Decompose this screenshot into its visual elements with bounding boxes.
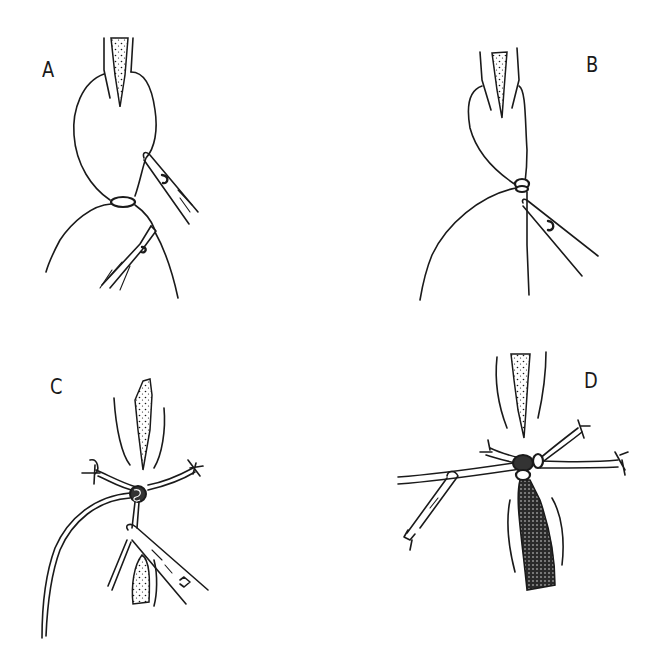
suture-tail-b (420, 188, 516, 300)
panel-a (46, 38, 198, 298)
suture-loop-b (469, 86, 517, 185)
knot-tying-figure: A B C D (0, 0, 663, 655)
panel-c (42, 379, 208, 638)
tissue-lower-c (132, 555, 149, 604)
knot-d (513, 455, 533, 471)
forceps-a (110, 226, 156, 288)
vessel-stump-b (492, 52, 507, 118)
illustration-canvas (0, 0, 663, 655)
tissue-upper-d (511, 354, 530, 438)
panel-d (398, 352, 628, 590)
knot-a (111, 197, 135, 207)
panel-b (420, 48, 598, 300)
knot-c (130, 486, 146, 502)
needle-holder-b (522, 199, 598, 256)
tissue-upper-c (135, 379, 152, 470)
tissue-lower-dark-d (518, 480, 555, 590)
suture-loop-a (74, 72, 156, 200)
suture-horizontal-d (398, 462, 520, 477)
vessel-stump-a (111, 38, 128, 107)
suture-end-right-d (538, 428, 578, 460)
